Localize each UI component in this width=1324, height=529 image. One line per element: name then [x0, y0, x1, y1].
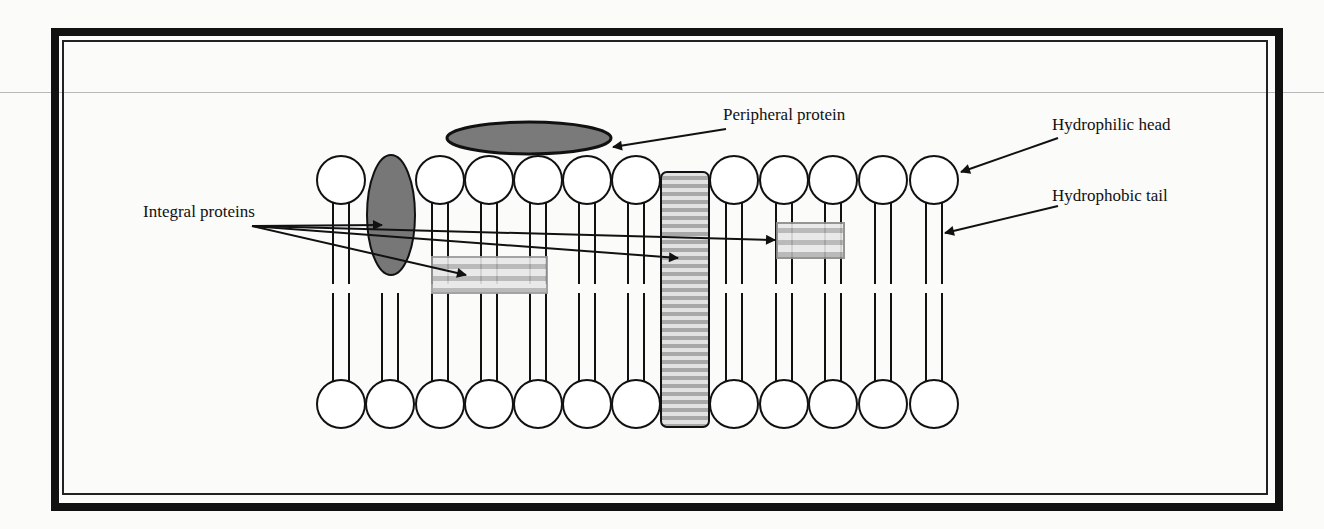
- phospholipid-head: [366, 380, 414, 428]
- phospholipid-head: [710, 156, 758, 204]
- phospholipid-head: [317, 380, 365, 428]
- phospholipid-head: [910, 380, 958, 428]
- phospholipid-head: [514, 380, 562, 428]
- peripheral-protein: [447, 122, 611, 154]
- phospholipid-head: [760, 156, 808, 204]
- phospholipid-head: [317, 156, 365, 204]
- phospholipid-head: [910, 156, 958, 204]
- label-peripheral-protein: Peripheral protein: [723, 106, 845, 123]
- phospholipid-head: [809, 380, 857, 428]
- integral-protein-small-right: [777, 223, 844, 258]
- phospholipid-head: [710, 380, 758, 428]
- arrow-peripheral: [613, 129, 726, 147]
- phospholipid-head: [416, 156, 464, 204]
- integral-protein-lower-left: [432, 257, 547, 293]
- phospholipid-head: [809, 156, 857, 204]
- integral-protein-channel: [661, 172, 709, 427]
- membrane-diagram: [0, 0, 1324, 529]
- phospholipid-head: [760, 380, 808, 428]
- phospholipid-head: [612, 380, 660, 428]
- phospholipid-head: [465, 156, 513, 204]
- label-hydrophobic-tail: Hydrophobic tail: [1052, 187, 1168, 204]
- phospholipid-head: [465, 380, 513, 428]
- arrow-hydrophobic-tail: [945, 206, 1058, 233]
- phospholipid-head: [416, 380, 464, 428]
- hydrophobic-tails: [333, 198, 942, 382]
- arrow-hydrophilic-head: [961, 138, 1058, 172]
- phospholipid-head: [563, 380, 611, 428]
- phospholipid-head: [563, 156, 611, 204]
- phospholipid-head: [859, 380, 907, 428]
- label-hydrophilic-head: Hydrophilic head: [1052, 116, 1171, 133]
- phospholipid-head: [859, 156, 907, 204]
- phospholipid-head: [612, 156, 660, 204]
- label-integral-proteins: Integral proteins: [143, 203, 255, 220]
- phospholipid-head: [514, 156, 562, 204]
